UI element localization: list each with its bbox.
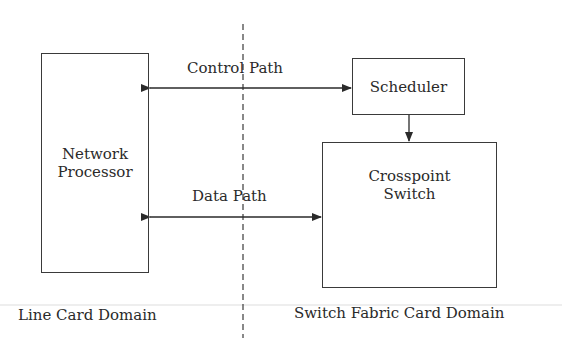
network-processor-line1: Network	[62, 145, 128, 163]
switch-fabric-domain-label: Switch Fabric Card Domain	[294, 304, 504, 322]
network-processor-line2: Processor	[57, 163, 132, 181]
data-path-label: Data Path	[192, 187, 267, 205]
crosspoint-switch-line2: Switch	[383, 185, 435, 203]
control-path-label: Control Path	[187, 59, 283, 77]
crosspoint-switch-line1: Crosspoint	[368, 167, 450, 185]
scheduler-label: Scheduler	[370, 78, 447, 96]
scheduler-box: Scheduler	[352, 58, 465, 115]
line-card-domain-label: Line Card Domain	[18, 306, 157, 324]
network-processor-box: Network Processor	[41, 53, 149, 273]
crosspoint-switch-box: Crosspoint Switch	[322, 142, 497, 288]
